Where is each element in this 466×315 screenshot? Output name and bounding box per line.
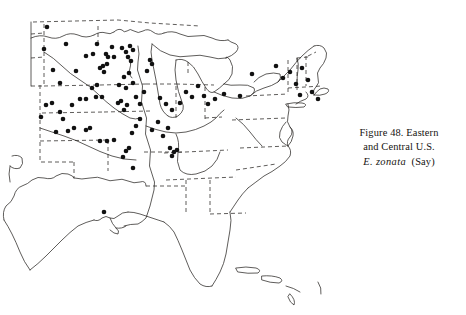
occurrence-dot [300,66,305,71]
occurrence-dot [105,62,110,67]
occurrence-dot [95,83,100,88]
occurrence-dot [213,97,218,102]
occurrence-dot [156,120,161,125]
occurrence-dot [222,92,227,97]
occurrence-dot [238,94,243,99]
occurrence-dot [142,90,147,95]
occurrence-dot [306,78,311,83]
occurrence-dot [105,139,110,144]
occurrence-dot [84,54,89,59]
occurrence-dot [168,146,173,151]
occurrence-dot [54,130,59,135]
occurrence-dot [294,82,299,87]
occurrence-dot [122,108,127,113]
occurrence-dot [164,102,169,107]
occurrence-dot [74,69,79,74]
occurrence-dot [131,166,136,171]
occurrence-dot [94,95,99,100]
caption-line-1: Figure 48. Eastern [336,126,462,140]
occurrence-dot [130,131,135,136]
occurrence-dot [39,115,44,120]
occurrence-dot [78,97,83,102]
occurrence-dot [64,42,69,47]
occurrence-dot [121,155,126,160]
occurrence-dot [129,59,134,64]
species-authority: (Say) [412,156,435,167]
occurrence-dot [42,47,47,52]
caption-line-3: E. zonata (Say) [336,155,462,169]
occurrence-dot [316,97,321,102]
occurrence-dot [98,139,103,144]
occurrence-dot [196,84,201,89]
occurrence-dot [184,90,189,95]
occurrence-dot [84,97,89,102]
occurrence-dot [58,110,63,115]
occurrence-dot [127,71,132,76]
occurrence-dot [126,55,131,60]
occurrence-dot [178,101,183,106]
occurrence-dot [161,134,166,139]
occurrence-dot [170,108,175,113]
occurrence-dot [61,117,66,122]
occurrence-dot [84,128,89,133]
occurrence-dot [175,148,180,153]
occurrence-dot [150,62,155,67]
occurrence-dot [50,101,55,106]
figure-caption: Figure 48. Eastern and Central U.S. E. z… [336,126,462,169]
occurrence-dot [58,81,63,86]
occurrence-dot [148,58,153,63]
occurrence-dot [70,103,75,108]
occurrence-dot [72,126,77,131]
occurrence-dot [250,72,255,77]
occurrence-dot [45,25,50,30]
occurrence-dot [102,70,107,75]
occurrence-dot [91,52,96,57]
occurrence-dot [128,44,133,49]
occurrence-dot [117,83,122,88]
occurrence-dot [90,86,95,91]
occurrence-dot [288,70,293,75]
occurrence-dot [106,55,111,60]
occurrence-dot [101,64,106,69]
occurrence-dot [102,210,107,215]
occurrence-dot [138,117,143,122]
occurrence-dot [124,50,129,55]
occurrence-dot [125,103,130,108]
occurrence-dot [120,46,125,51]
occurrence-dot [44,103,49,108]
occurrence-dot [310,90,315,95]
occurrence-dot [190,95,195,100]
occurrence-dot [122,75,127,80]
occurrence-dot [95,42,100,47]
species-name: E. zonata [363,156,406,167]
occurrence-dot [100,95,105,100]
occurrence-dot [298,93,303,98]
occurrence-dot [131,81,136,86]
occurrence-dot [150,128,155,133]
occurrence-dot [88,126,93,131]
occurrence-dot [281,76,286,81]
occurrence-dot [145,69,150,74]
occurrence-dot [119,99,124,104]
occurrence-dot [274,64,279,69]
occurrence-dot [66,129,71,134]
caption-line-2: and Central U.S. [336,140,462,154]
occurrence-dot [166,126,171,131]
occurrence-dot [51,68,56,73]
occurrence-dot [170,154,175,159]
occurrence-dot [127,146,132,151]
occurrence-dot [124,86,129,91]
occurrence-dot [202,94,207,99]
occurrence-dot [206,102,211,107]
figure-container: Figure 48. Eastern and Central U.S. E. z… [0,0,466,315]
occurrence-dot [134,95,139,100]
occurrence-dot [112,55,117,60]
occurrence-dot [131,48,136,53]
occurrence-dot [110,45,115,50]
occurrence-dot [138,102,143,107]
occurrence-dot [158,96,163,101]
occurrence-dot [134,124,139,129]
occurrence-dot [112,138,117,143]
